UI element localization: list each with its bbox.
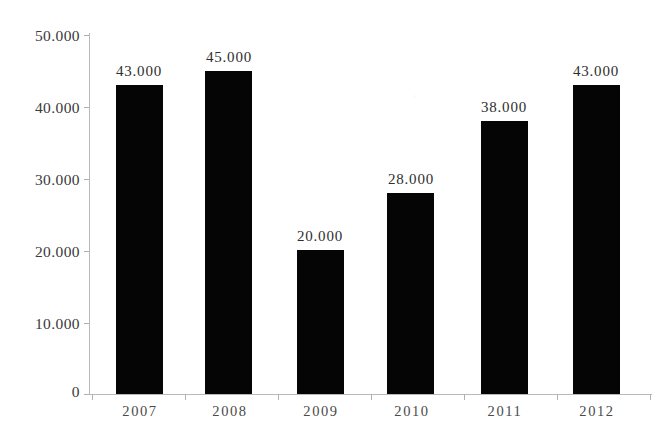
bar-value-2009: 20.000 <box>275 228 365 245</box>
y-tick-label-0: 50.000 <box>0 27 80 43</box>
x-label-2008: 2008 <box>185 403 275 420</box>
bar-value-2008: 45.000 <box>184 49 274 66</box>
x-label-2009: 2009 <box>276 403 366 420</box>
x-label-2010: 2010 <box>367 403 457 420</box>
x-label-2012: 2012 <box>552 403 642 420</box>
x-axis-tick <box>92 394 93 400</box>
x-label-2011: 2011 <box>460 403 550 420</box>
bar-2007[interactable] <box>116 85 163 394</box>
bar-2009[interactable] <box>297 250 344 394</box>
bar-2012[interactable] <box>573 85 620 394</box>
bar-value-2007: 43.000 <box>94 63 184 80</box>
bar-2010[interactable] <box>387 193 434 394</box>
y-tick-label-text: 50.000 <box>2 27 80 45</box>
bar-2008[interactable] <box>205 71 252 394</box>
bar-2011[interactable] <box>481 121 528 394</box>
y-tick-label-text: 20.000 <box>2 243 80 261</box>
x-axis-tick <box>371 394 372 400</box>
x-axis-tick <box>278 394 279 400</box>
plot-area: 50.000 40.000 30.000 20.000 10.000 0 <box>0 0 659 438</box>
bar-value-2011: 38.000 <box>459 99 549 116</box>
y-tick-label-2: 30.000 <box>0 171 80 187</box>
y-tick-label-3: 20.000 <box>0 243 80 259</box>
x-label-2007: 2007 <box>95 403 185 420</box>
bar-chart: 50.000 40.000 30.000 20.000 10.000 0 <box>0 0 659 438</box>
x-axis-tick <box>185 394 186 400</box>
y-tick-label-4: 10.000 <box>0 315 80 331</box>
y-tick-label-text: 0 <box>2 383 80 401</box>
bar-value-2012: 43.000 <box>551 63 641 80</box>
y-axis-line <box>89 33 90 395</box>
x-axis-tick <box>650 394 651 400</box>
x-axis-tick <box>464 394 465 400</box>
y-tick-label-text: 40.000 <box>2 99 80 117</box>
x-axis-tick <box>557 394 558 400</box>
y-tick-label-1: 40.000 <box>0 99 80 115</box>
bar-value-2010: 28.000 <box>366 171 456 188</box>
y-tick-label-text: 10.000 <box>2 315 80 333</box>
y-tick-label-5: 0 <box>0 383 80 399</box>
y-tick-label-text: 30.000 <box>2 171 80 189</box>
